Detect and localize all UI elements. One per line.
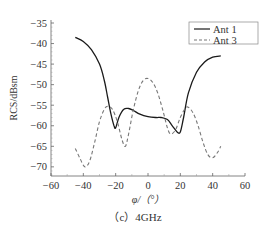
y-tick-label: −40 [31,38,47,49]
y-tick-label: −60 [31,120,47,131]
series-line-ant-1 [75,37,221,133]
rcs-line-chart: −35−40−45−50−55−60−65−70−60−40−200204060… [0,0,270,231]
series-lines [75,37,221,167]
figure-caption: （c）4GHz [0,208,270,224]
series-line-ant-3 [75,78,221,167]
x-tick-label: −20 [107,180,123,191]
y-tick-label: −65 [31,141,47,152]
y-tick-label: −55 [31,100,47,111]
y-tick-label: −50 [31,79,47,90]
legend-label: Ant 1 [213,24,237,35]
y-tick-label: −35 [31,18,47,29]
axes: −35−40−45−50−55−60−65−70−60−40−200204060… [8,18,250,206]
x-tick-label: 60 [240,180,251,191]
y-tick-label: −70 [31,161,47,172]
x-tick-label: 0 [145,180,150,191]
x-axis-title: φ/（°） [132,194,164,205]
legend: Ant 1Ant 3 [189,22,258,46]
x-tick-label: 20 [175,180,186,191]
legend-label: Ant 3 [213,35,237,46]
x-tick-label: 40 [207,180,218,191]
x-tick-label: −40 [75,180,91,191]
x-tick-label: −60 [43,180,59,191]
y-tick-label: −45 [31,59,47,70]
y-axis-title: RCS/dBsm [8,75,19,120]
